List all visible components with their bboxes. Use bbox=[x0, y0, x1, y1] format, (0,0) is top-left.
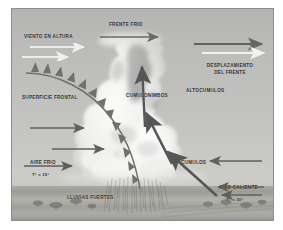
tree-icon bbox=[50, 202, 63, 210]
tree-icon bbox=[88, 204, 97, 210]
label-aire-caliente-temperature: T° = 30° bbox=[226, 197, 243, 203]
anvil-wind-arrows bbox=[100, 37, 264, 53]
weather-diagram-figure: FRENTE FRIO VIENTO EN ALTURA DESPLAZAMIE… bbox=[0, 0, 283, 230]
label-frente-frio: FRENTE FRIO bbox=[109, 22, 143, 29]
upper-wind-arrows bbox=[22, 47, 84, 57]
label-desplazamiento-del-frente: DESPLAZAMIENTO DEL FRENTE bbox=[202, 63, 258, 76]
tree-icon bbox=[33, 200, 43, 207]
cold-front-surface bbox=[26, 62, 140, 189]
label-aire-frio-temperature: T° = 15° bbox=[32, 172, 49, 178]
diagram-plate: FRENTE FRIO VIENTO EN ALTURA DESPLAZAMIE… bbox=[11, 8, 274, 221]
label-aire-caliente: AIRE CALIENTE bbox=[219, 185, 258, 192]
label-aire-frio: AIRE FRIO bbox=[30, 160, 56, 167]
label-altocumulos: ALTOCUMULOS bbox=[186, 88, 224, 95]
label-viento-en-altura: VIENTO EN ALTURA bbox=[24, 34, 73, 41]
label-cumulos: CUMULOS bbox=[181, 160, 206, 167]
label-superficie-frontal: SUPERFICIE FRONTAL bbox=[22, 95, 78, 102]
updraft-arrows bbox=[142, 67, 217, 196]
label-cumulonimbos: CUMULONIMBOS bbox=[126, 93, 168, 100]
label-lluvias-fuertes: LLUVIAS FUERTES bbox=[67, 195, 114, 202]
field-furrows bbox=[162, 202, 273, 217]
